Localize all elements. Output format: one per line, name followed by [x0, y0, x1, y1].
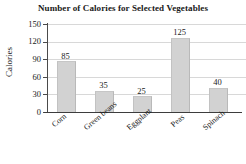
gridline-150 [48, 24, 246, 25]
y-tick-label-120: 120 [0, 37, 41, 46]
chart-title: Number of Calories for Selected Vegetabl… [0, 3, 246, 13]
bar-value-corn: 85 [51, 52, 80, 61]
y-tick-label-150: 150 [0, 20, 41, 29]
y-tick-label-90: 90 [0, 55, 41, 64]
bar-value-spinach: 40 [203, 78, 232, 87]
bar-value-eggplant: 25 [127, 87, 156, 96]
y-tick-label-0: 0 [0, 108, 41, 117]
plot-area: 85 35 25 125 40 [48, 24, 246, 112]
y-tick-label-30: 30 [0, 90, 41, 99]
x-tick-label-peas: Peas [169, 113, 186, 129]
bar-spinach[interactable] [209, 88, 228, 113]
gridline-120 [48, 42, 246, 43]
bar-corn[interactable] [57, 61, 76, 112]
y-tick-label-60: 60 [0, 73, 41, 82]
bar-value-peas: 125 [163, 28, 196, 37]
x-tick-label-corn: Corn [50, 112, 68, 129]
bar-value-green-beans: 35 [89, 81, 118, 90]
chart-screenshot: Number of Calories for Selected Vegetabl… [0, 0, 246, 164]
bar-peas[interactable] [171, 38, 190, 112]
